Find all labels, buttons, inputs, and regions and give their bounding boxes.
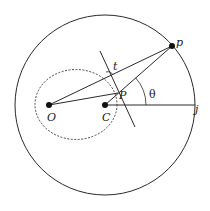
- label-t: t: [113, 60, 118, 73]
- theta-arc: [136, 78, 146, 105]
- line-C-p: [105, 46, 172, 105]
- label-C: C: [102, 111, 111, 124]
- label-p: p: [176, 36, 183, 49]
- label-O: O: [47, 111, 56, 124]
- point-C: [102, 102, 108, 108]
- label-theta: θ: [149, 88, 156, 101]
- label-P: P: [118, 89, 127, 102]
- point-O: [46, 102, 52, 108]
- geometry-diagram: O C P p j t θ: [0, 0, 210, 211]
- point-p: [169, 43, 175, 49]
